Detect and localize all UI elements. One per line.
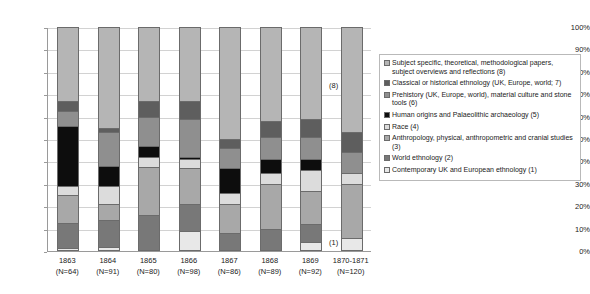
bar-segment-1868-cat6 (260, 137, 282, 159)
legend-swatch-icon (384, 92, 390, 98)
gridline (48, 162, 371, 163)
legend-item: Race (4) (383, 123, 577, 132)
y-axis-tick-mark (44, 162, 47, 163)
annotation-segment-one: (1) (329, 238, 338, 247)
bar-segment-1863-cat1 (57, 248, 79, 251)
legend-item: Prehistory (UK, Europe, world), material… (383, 91, 577, 108)
bar-segment-1864-cat5 (98, 166, 120, 186)
bar-segment-1865-cat5 (138, 146, 160, 157)
legend-item: Contemporary UK and European ethnology (… (383, 166, 577, 175)
y-axis-tick-mark (44, 28, 47, 29)
y-axis-tick-mark (44, 207, 47, 208)
legend-item: Classical or historical ethnology (UK, E… (383, 79, 577, 88)
legend-item-label: Anthropology, physical, anthropometric a… (392, 134, 577, 151)
bar-segment-1863-cat6 (57, 111, 79, 126)
gridline (48, 50, 371, 51)
bar-segment-1869-cat3 (300, 191, 322, 225)
gridline (48, 28, 371, 29)
gridline (48, 73, 371, 74)
bar-segment-1869-cat2 (300, 224, 322, 242)
gridline (48, 140, 371, 141)
bar-segment-1864-cat3 (98, 204, 120, 220)
gridline (48, 185, 371, 186)
y-axis-tick-label: 100% (548, 24, 590, 32)
bar-1866 (179, 27, 201, 251)
legend-item-label: Human origins and Palaeolithic archaeolo… (392, 111, 577, 120)
bar-1864 (98, 27, 120, 251)
y-axis-tick-mark (44, 73, 47, 74)
y-axis-tick-label: 10% (548, 226, 590, 234)
bar-segment-1868-cat7 (260, 121, 282, 137)
bar-segment-1868-cat4 (260, 173, 282, 184)
legend-item: Human origins and Palaeolithic archaeolo… (383, 111, 577, 120)
y-axis-tick-mark (44, 50, 47, 51)
legend-item-label: Classical or historical ethnology (UK, E… (392, 79, 577, 88)
bar-segment-1864-cat4 (98, 186, 120, 204)
legend-item: World ethnology (2) (383, 154, 577, 163)
bar-segment-1865-cat7 (138, 101, 160, 117)
legend-item-label: Contemporary UK and European ethnology (… (392, 166, 577, 175)
x-axis-label-year: 1870-1871 (321, 256, 381, 267)
x-axis-label-count: (N=120) (321, 267, 381, 278)
legend-swatch-icon (384, 167, 390, 173)
bar-segment-1868-cat5 (260, 159, 282, 172)
bar-segment-1870-1871-cat1 (341, 238, 363, 251)
bar-segment-1866-cat5 (179, 157, 201, 159)
legend-swatch-icon (384, 80, 390, 86)
bar-segment-1865-cat6 (138, 117, 160, 146)
y-axis-tick-mark (44, 95, 47, 96)
bar-segment-1870-1871-cat8 (341, 27, 363, 132)
bar-1863 (57, 27, 79, 251)
bar-segment-1868-cat2 (260, 229, 282, 251)
legend-item-label: Subject specific, theoretical, methodolo… (392, 59, 577, 76)
bar-segment-1863-cat3 (57, 195, 79, 223)
legend-item: Subject specific, theoretical, methodolo… (383, 59, 577, 76)
bar-segment-1868-cat3 (260, 184, 282, 229)
bar-1867 (219, 27, 241, 251)
y-axis-tick-mark (44, 118, 47, 119)
plot-area (47, 28, 371, 252)
legend: Subject specific, theoretical, methodolo… (379, 54, 581, 181)
y-axis-tick-mark (44, 140, 47, 141)
bar-segment-1865-cat3 (138, 167, 160, 215)
legend-swatch-icon (384, 155, 390, 161)
bar-1870-1871 (341, 27, 363, 251)
y-axis-tick-mark (44, 252, 47, 253)
bar-segment-1863-cat7 (57, 101, 79, 111)
y-axis-tick-label: 30% (548, 181, 590, 189)
y-axis-tick-label: 0% (548, 248, 590, 256)
legend-swatch-icon (384, 112, 390, 118)
bar-segment-1866-cat8 (179, 27, 201, 101)
legend-item-label: World ethnology (2) (392, 154, 577, 163)
bar-segment-1870-1871-cat3 (341, 184, 363, 238)
gridline (48, 230, 371, 231)
bar-segment-1867-cat5 (219, 168, 241, 193)
bar-1868 (260, 27, 282, 251)
bar-segment-1864-cat8 (98, 27, 120, 128)
bar-segment-1870-1871-cat7 (341, 132, 363, 152)
bar-segment-1864-cat7 (98, 128, 120, 132)
bar-segment-1868-cat8 (260, 27, 282, 121)
legend-item-label: Race (4) (392, 123, 577, 132)
bar-1865 (138, 27, 160, 251)
legend-swatch-icon (384, 135, 390, 141)
bar-segment-1867-cat6 (219, 148, 241, 168)
bar-segment-1866-cat2 (179, 204, 201, 231)
legend-item: Anthropology, physical, anthropometric a… (383, 134, 577, 151)
gridline (48, 207, 371, 208)
bar-segment-1864-cat1 (98, 247, 120, 251)
bar-segment-1863-cat2 (57, 223, 79, 248)
stacked-bar-chart: 0%10%20%30%40%50%60%70%80%90%100% 1863(N… (0, 0, 590, 294)
bar-segment-1867-cat3 (219, 204, 241, 233)
bar-segment-1869-cat1 (300, 242, 322, 251)
bar-segment-1863-cat5 (57, 126, 79, 186)
legend-item-label: Prehistory (UK, Europe, world), material… (392, 91, 577, 108)
annotation-segment-eight: (8) (329, 81, 338, 90)
y-axis-tick-mark (44, 230, 47, 231)
legend-swatch-icon (384, 60, 390, 66)
bar-segment-1863-cat8 (57, 27, 79, 101)
bar-segment-1866-cat4 (179, 159, 201, 168)
bar-segment-1867-cat2 (219, 233, 241, 251)
bar-segment-1866-cat7 (179, 101, 201, 119)
bar-1869 (300, 27, 322, 251)
